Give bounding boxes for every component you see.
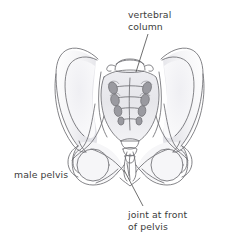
label-male-pelvis-line1: male pelvis: [14, 169, 68, 181]
label-vertebral-column-line1: vertebral: [128, 9, 171, 21]
label-joint-front-pelvis-line2: of pelvis: [128, 221, 187, 233]
lumbar-vertebra-body: [115, 59, 145, 70]
leader-line-vertebral-column: [136, 34, 148, 72]
diagram-canvas: vertebral column male pelvis joint at fr…: [0, 0, 228, 242]
label-vertebral-column-line2: column: [128, 21, 171, 33]
right-sacral-foramen-4: [136, 117, 143, 125]
pubic-symphysis-right-edge: [133, 152, 136, 181]
pubic-symphysis-joint-line: [129, 154, 130, 180]
right-transverse-process: [145, 65, 153, 71]
label-male-pelvis: male pelvis: [14, 169, 68, 181]
coccyx-tip: [127, 163, 129, 176]
label-vertebral-column: vertebral column: [128, 9, 171, 32]
left-transverse-process: [107, 65, 115, 71]
label-joint-front-pelvis: joint at front of pelvis: [128, 209, 187, 232]
leader-line-joint-front-pelvis: [124, 170, 143, 206]
pelvis-illustration: [0, 0, 228, 242]
pubic-symphysis-left-edge: [124, 152, 127, 181]
label-joint-front-pelvis-line1: joint at front: [128, 209, 187, 221]
left-sacral-foramen-4: [118, 117, 125, 125]
